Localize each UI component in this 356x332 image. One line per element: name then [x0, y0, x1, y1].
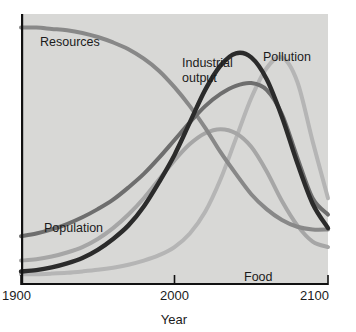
x-tick-label-2100: 2100: [300, 288, 329, 303]
series-label-resources: Resources: [40, 35, 100, 49]
series-label-food: Food: [244, 270, 273, 284]
x-axis-title: Year: [161, 312, 188, 327]
x-tick-label-1900: 1900: [2, 288, 31, 303]
series-label-population: Population: [44, 221, 103, 235]
x-axis-tick-labels-group: 190020002100: [2, 288, 329, 303]
series-label-industrial-output-line1: Industrial: [182, 56, 233, 70]
series-label-pollution: Pollution: [263, 50, 311, 64]
chart-svg: 190020002100 Year Resources Population I…: [0, 0, 356, 332]
limits-to-growth-chart: 190020002100 Year Resources Population I…: [0, 0, 356, 332]
series-label-industrial-output-line2: output: [182, 71, 217, 85]
x-tick-label-2000: 2000: [160, 288, 189, 303]
